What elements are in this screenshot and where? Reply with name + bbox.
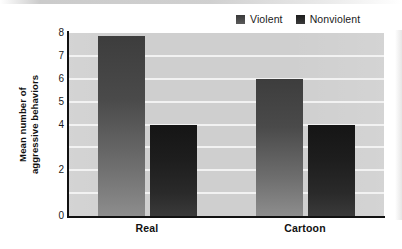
plot-area (68, 33, 384, 216)
y-axis-title-line1: Mean number of (18, 75, 30, 174)
legend-label-violent: Violent (250, 14, 283, 25)
category-label-real: Real (136, 222, 159, 234)
bar-cartoon-nonviolent (308, 125, 355, 217)
chart-legend: Violent Nonviolent (236, 12, 360, 26)
bar-cartoon-violent (256, 79, 303, 216)
y-tick-label: 4 (44, 120, 64, 130)
bar-real-violent (98, 36, 145, 216)
x-axis-line (67, 216, 385, 218)
violent-swatch-icon (236, 15, 245, 24)
legend-item-violent: Violent (236, 14, 283, 25)
category-label-cartoon: Cartoon (284, 222, 326, 234)
y-tick-label: 7 (44, 51, 64, 61)
y-tick-label: 0 (44, 211, 64, 221)
bar-real-nonviolent (150, 125, 197, 217)
scan-artifact-right (395, 30, 402, 220)
bar-chart-figure: Violent Nonviolent Mean number of aggres… (0, 0, 402, 249)
y-tick-label: 5 (44, 97, 64, 107)
nonviolent-swatch-icon (296, 15, 305, 24)
y-tick-label: 6 (44, 74, 64, 84)
scan-artifact-top (0, 0, 402, 4)
legend-item-nonviolent: Nonviolent (296, 14, 361, 25)
y-axis-line (67, 31, 69, 218)
y-tick-label: 2 (44, 165, 64, 175)
legend-label-nonviolent: Nonviolent (310, 14, 361, 25)
y-tick-label: 8 (44, 28, 64, 38)
y-axis-title-line2: aggressive behaviors (29, 75, 41, 174)
y-axis-tick-labels: 8765420 (40, 33, 64, 216)
